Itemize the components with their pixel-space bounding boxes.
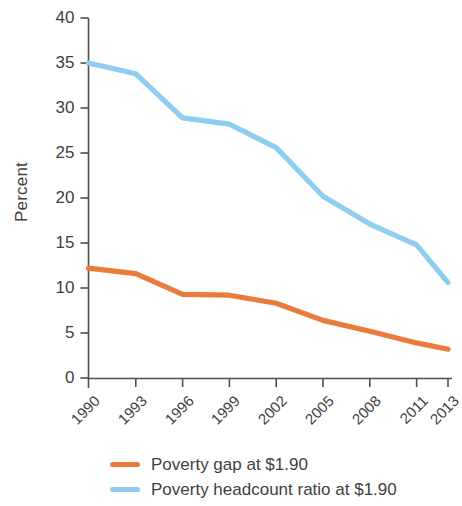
legend-swatch-icon <box>110 487 140 492</box>
y-axis-tick-label: 15 <box>41 234 75 251</box>
series-line <box>89 63 449 283</box>
y-axis-title-wrapper: Percent <box>12 132 32 252</box>
legend-label: Poverty headcount ratio at $1.90 <box>151 481 397 498</box>
y-axis-tick-label: 25 <box>41 144 75 161</box>
y-axis-tick-label: 10 <box>41 279 75 296</box>
legend-label: Poverty gap at $1.90 <box>151 456 308 473</box>
y-axis-title: Percent <box>12 162 31 222</box>
y-axis-tick-label: 5 <box>41 324 75 341</box>
y-axis-ticks <box>81 18 89 378</box>
y-axis-tick-label: 40 <box>41 9 75 26</box>
legend-item[interactable]: Poverty gap at $1.90 <box>110 452 458 477</box>
y-axis-tick-label: 35 <box>41 54 75 71</box>
chart-legend: Poverty gap at $1.90Poverty headcount ra… <box>110 452 458 502</box>
data-series-group <box>89 63 449 349</box>
x-axis-ticks <box>89 378 449 388</box>
series-line <box>89 268 449 349</box>
axis-lines <box>88 18 452 379</box>
y-axis-tick-label: 20 <box>41 189 75 206</box>
legend-item[interactable]: Poverty headcount ratio at $1.90 <box>110 477 458 502</box>
y-axis-tick-label: 0 <box>41 369 75 386</box>
y-axis-tick-label: 30 <box>41 99 75 116</box>
legend-swatch-icon <box>110 462 140 467</box>
